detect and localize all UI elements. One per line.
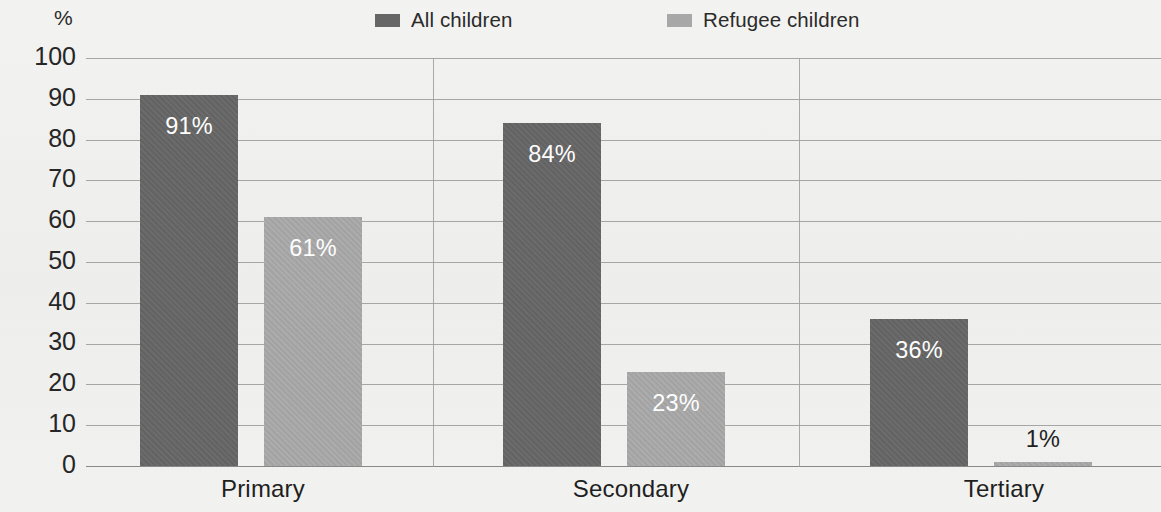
bar-tertiary-all-children[interactable]: 36% — [870, 319, 968, 466]
y-tick-label: 80 — [48, 126, 76, 151]
gridline — [86, 99, 1161, 100]
gridline — [86, 344, 1161, 345]
gridline — [86, 221, 1161, 222]
y-tick-label: 50 — [48, 248, 76, 273]
legend-entry-refugee-children[interactable]: Refugee children — [667, 8, 860, 32]
bar-value-label: 84% — [503, 141, 601, 168]
category-label-secondary: Secondary — [541, 475, 721, 503]
x-axis-baseline — [86, 466, 1161, 467]
bar-value-label: 61% — [264, 235, 362, 262]
y-axis-unit-label: % — [54, 6, 73, 30]
legend-entry-all-children[interactable]: All children — [375, 8, 512, 32]
y-tick-label: 60 — [48, 207, 76, 232]
y-tick-label: 20 — [48, 370, 76, 395]
chart-legend: All children Refugee children — [0, 6, 1161, 38]
bar-value-label: 23% — [627, 390, 725, 417]
category-divider — [433, 58, 434, 467]
x-axis-category-labels: Primary Secondary Tertiary — [86, 475, 1161, 512]
legend-label: All children — [411, 8, 512, 32]
bar-chart: All children Refugee children % 100 90 8… — [0, 0, 1161, 512]
y-tick-label: 0 — [62, 452, 76, 477]
gridline — [86, 384, 1161, 385]
y-tick-label: 10 — [48, 411, 76, 436]
bar-value-label: 36% — [870, 337, 968, 364]
legend-swatch-icon — [667, 14, 692, 27]
gridline — [86, 58, 1161, 59]
y-tick-label: 100 — [34, 44, 76, 69]
bar-primary-refugee-children[interactable]: 61% — [264, 217, 362, 466]
category-divider — [799, 58, 800, 467]
bar-tertiary-refugee-children[interactable]: 1% — [994, 462, 1092, 466]
gridline — [86, 303, 1161, 304]
bar-secondary-refugee-children[interactable]: 23% — [627, 372, 725, 466]
gridline — [86, 140, 1161, 141]
y-axis: % 100 90 80 70 60 50 40 30 20 10 0 — [0, 0, 86, 512]
plot-area: 91% 61% 84% 23% 36% 1% — [86, 58, 1161, 466]
bar-primary-all-children[interactable]: 91% — [140, 95, 238, 466]
y-tick-label: 70 — [48, 166, 76, 191]
legend-label: Refugee children — [703, 8, 860, 32]
gridline — [86, 180, 1161, 181]
y-tick-label: 90 — [48, 85, 76, 110]
category-label-tertiary: Tertiary — [924, 475, 1084, 503]
category-label-primary: Primary — [190, 475, 336, 503]
legend-swatch-icon — [375, 14, 400, 27]
gridline — [86, 262, 1161, 263]
bar-value-label: 1% — [994, 426, 1092, 453]
y-tick-label: 40 — [48, 289, 76, 314]
bar-value-label: 91% — [140, 113, 238, 140]
y-tick-label: 30 — [48, 329, 76, 354]
bar-secondary-all-children[interactable]: 84% — [503, 123, 601, 466]
